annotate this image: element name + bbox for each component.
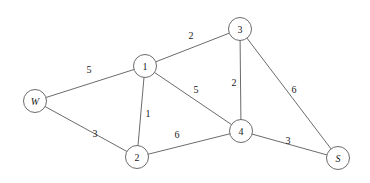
node-label-2: 2 [135, 152, 140, 163]
node-label-1: 1 [143, 61, 148, 72]
graph-node-2: 2 [126, 146, 149, 169]
edge-weight-3-S: 6 [292, 84, 297, 95]
graph-diagram: W1234S 532152663 [0, 0, 370, 183]
edge-weight-W-1: 5 [87, 64, 92, 75]
graph-canvas: W1234S 532152663 [0, 0, 370, 183]
edge-weight-1-3: 2 [189, 30, 194, 41]
graph-node-1: 1 [134, 55, 157, 78]
edge-weight-W-2: 3 [93, 128, 98, 139]
node-label-4: 4 [239, 126, 244, 137]
node-label-S: S [336, 153, 341, 164]
node-label-3: 3 [238, 24, 243, 35]
graph-edge-3-S [247, 38, 331, 149]
edge-weights-layer: 532152663 [87, 30, 297, 146]
graph-node-4: 4 [230, 120, 253, 143]
graph-node-3: 3 [229, 18, 252, 41]
edge-weight-1-2: 1 [146, 108, 151, 119]
edge-weight-4-S: 3 [286, 135, 291, 146]
graph-edge-1-4 [155, 72, 232, 124]
edge-weight-2-4: 6 [175, 129, 180, 140]
graph-edge-3-4 [240, 41, 241, 120]
graph-edge-2-4 [148, 134, 230, 154]
graph-node-W: W [24, 90, 47, 113]
graph-node-S: S [327, 147, 350, 170]
nodes-layer: W1234S [24, 18, 350, 170]
graph-edge-W-2 [45, 107, 127, 152]
edge-weight-3-4: 2 [232, 77, 237, 88]
graph-edge-1-2 [138, 77, 144, 145]
edge-weight-1-4: 5 [194, 84, 199, 95]
